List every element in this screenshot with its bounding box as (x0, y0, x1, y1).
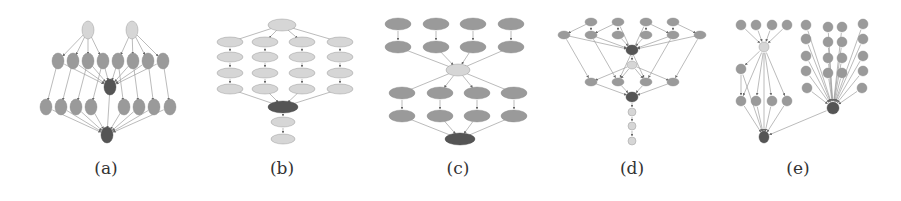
node-dark (104, 79, 116, 95)
node-mid (40, 99, 52, 115)
edge (809, 61, 830, 101)
edge (651, 24, 669, 33)
node-light (289, 37, 315, 47)
edge (678, 24, 696, 33)
node-mid (823, 22, 833, 32)
node-mid (640, 78, 652, 86)
node-mid (112, 53, 124, 69)
edge (596, 37, 627, 48)
edge (621, 39, 627, 46)
node-mid (857, 83, 867, 93)
edge (48, 68, 56, 100)
panel-b (217, 19, 353, 144)
edge (134, 68, 138, 100)
node-mid (501, 87, 527, 99)
edge (566, 39, 588, 77)
edge (164, 68, 169, 100)
node-mid (389, 110, 415, 122)
node-mid (837, 22, 847, 32)
node-mid (612, 18, 624, 26)
node-mid (736, 96, 746, 106)
node-light (252, 37, 278, 47)
node-mid (585, 78, 597, 86)
node-mid (55, 99, 67, 115)
node-mid (751, 96, 761, 106)
edge (648, 39, 670, 77)
edge (462, 53, 469, 64)
edge (621, 86, 627, 93)
node-mid (667, 31, 679, 39)
node-mid (782, 96, 792, 106)
node-mid (612, 31, 624, 39)
node-mid (694, 31, 706, 39)
panel-d (558, 18, 706, 145)
edge (766, 53, 784, 96)
node-mid (801, 20, 811, 30)
edge (638, 84, 669, 95)
edge (76, 36, 85, 54)
panel-label-c: (c) (428, 158, 488, 178)
edge (593, 39, 615, 77)
node-light (252, 68, 278, 78)
node-mid (385, 18, 411, 30)
edge (596, 67, 628, 80)
node-light (627, 61, 637, 69)
node-mid (823, 53, 833, 63)
node-mid (70, 99, 82, 115)
edge (444, 76, 453, 88)
edge (112, 68, 116, 81)
node-mid (427, 110, 453, 122)
nodes (40, 21, 176, 143)
node-mid (736, 64, 746, 74)
edge (121, 36, 129, 54)
node-mid (133, 99, 145, 115)
node-mid (858, 19, 868, 29)
node-mid (498, 41, 524, 53)
node-mid (801, 66, 811, 76)
edge (768, 29, 782, 43)
node-light (628, 108, 636, 116)
node-mid (118, 99, 130, 115)
node-dark (445, 133, 475, 145)
node-mid (164, 99, 176, 115)
panel-c (385, 18, 527, 145)
edge (67, 111, 101, 132)
node-mid (460, 41, 486, 53)
panel-e (736, 19, 868, 143)
node-light (628, 137, 636, 145)
edge (569, 24, 587, 33)
node-light (271, 117, 295, 127)
edge (596, 24, 614, 33)
nodes (385, 18, 527, 145)
edges (398, 31, 514, 136)
node-mid (585, 31, 597, 39)
node-mid (640, 18, 652, 26)
node-dark (827, 102, 839, 114)
edge (269, 30, 277, 38)
edge (638, 37, 669, 48)
edge (675, 39, 697, 77)
edge (462, 75, 472, 87)
edge (405, 50, 452, 68)
node-mid (423, 41, 449, 53)
edge (637, 67, 669, 80)
node-mid (52, 53, 64, 69)
node-mid (858, 66, 868, 76)
node-light (217, 37, 243, 47)
edge (636, 86, 642, 93)
nodes (217, 19, 353, 144)
node-mid (612, 78, 624, 86)
node-mid (858, 51, 868, 61)
edge (91, 36, 100, 54)
nodes (558, 18, 706, 145)
edge (113, 111, 148, 132)
node-mid (585, 18, 597, 26)
node-light (271, 134, 295, 144)
node-light (217, 84, 243, 94)
edge (288, 93, 298, 102)
panel-label-d: (d) (602, 158, 662, 178)
edge (287, 30, 297, 39)
node-mid (667, 18, 679, 26)
node-light (327, 52, 353, 62)
node-mid (389, 87, 415, 99)
